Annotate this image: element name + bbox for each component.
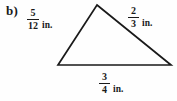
right-side-measure: 2 3 in.: [128, 6, 152, 29]
geometry-figure: b) 5 12 in. 2 3 in. 3 4 in.: [0, 0, 177, 101]
base-side-measure: 3 4 in.: [99, 72, 123, 95]
right-side-fraction: 2 3: [128, 6, 139, 29]
base-side-unit: in.: [113, 85, 123, 96]
part-letter-label: b): [6, 4, 18, 17]
triangle-outline: [58, 5, 171, 65]
left-side-unit: in.: [42, 21, 52, 32]
left-side-measure: 5 12 in.: [27, 8, 52, 31]
left-side-denominator: 12: [27, 20, 39, 31]
base-side-numerator: 3: [101, 72, 108, 83]
right-side-denominator: 3: [130, 18, 137, 29]
left-side-numerator: 5: [30, 8, 37, 19]
base-side-denominator: 4: [101, 84, 108, 95]
right-side-unit: in.: [142, 19, 152, 30]
base-side-fraction: 3 4: [99, 72, 110, 95]
left-side-fraction: 5 12: [27, 8, 39, 31]
right-side-numerator: 2: [130, 6, 137, 17]
